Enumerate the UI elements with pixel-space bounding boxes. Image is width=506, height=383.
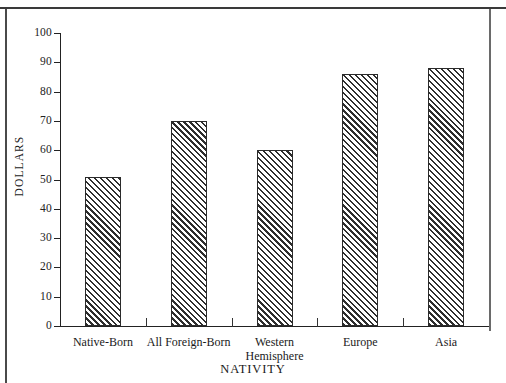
x-axis-category-label-line: Native-Born bbox=[60, 336, 146, 350]
y-axis-tick bbox=[54, 238, 61, 239]
y-axis-tick-label-text: 80 bbox=[4, 86, 52, 98]
y-axis-tick-label: 70 bbox=[0, 115, 52, 127]
y-axis-tick-label: 20 bbox=[0, 261, 52, 273]
y-axis-tick-label: 10 bbox=[0, 291, 52, 303]
x-axis-category-label: WesternHemisphere bbox=[232, 336, 318, 363]
y-axis-tick bbox=[54, 180, 61, 181]
y-axis-tick bbox=[54, 121, 61, 122]
x-axis-tick bbox=[232, 318, 233, 327]
x-axis-line bbox=[60, 326, 489, 327]
y-axis-tick-label-text: 20 bbox=[4, 261, 52, 273]
y-axis-tick-label-text: 10 bbox=[4, 291, 52, 303]
y-axis-tick-label-text: 70 bbox=[4, 115, 52, 127]
y-axis-tick-label-text: 50 bbox=[4, 174, 52, 186]
x-axis-tick bbox=[317, 318, 318, 327]
y-axis-tick-label: 80 bbox=[0, 86, 52, 98]
y-axis-tick-label: 0 bbox=[0, 320, 52, 332]
x-axis-category-label: Asia bbox=[403, 336, 489, 350]
y-axis-tick bbox=[54, 209, 61, 210]
bar bbox=[257, 150, 293, 326]
y-axis-tick-label: 100 bbox=[0, 27, 52, 39]
y-axis-tick-label: 60 bbox=[0, 144, 52, 156]
y-axis-tick-label-text: 100 bbox=[4, 27, 52, 39]
x-axis-category-label-line: Western bbox=[232, 336, 318, 350]
x-axis-category-label: Native-Born bbox=[60, 336, 146, 350]
y-axis-tick bbox=[54, 267, 61, 268]
y-axis-tick bbox=[54, 150, 61, 151]
x-axis-category-label: Europe bbox=[317, 336, 403, 350]
y-axis-title: DOLLARS bbox=[13, 116, 25, 216]
x-axis-category-label: All Foreign-Born bbox=[146, 336, 232, 350]
x-axis-category-label-line: Asia bbox=[403, 336, 489, 350]
y-axis-tick bbox=[54, 326, 61, 327]
x-axis-title: NATIVITY bbox=[0, 362, 506, 377]
y-axis-tick bbox=[54, 92, 61, 93]
y-axis-tick-label-text: 30 bbox=[4, 232, 52, 244]
x-axis-tick bbox=[403, 318, 404, 327]
y-axis-tick bbox=[54, 297, 61, 298]
y-axis-tick-label: 40 bbox=[0, 203, 52, 215]
x-axis-tick bbox=[146, 318, 147, 327]
bar-chart: 1009080706050403020100 DOLLARS NATIVITY … bbox=[0, 0, 506, 383]
y-axis-tick-label: 90 bbox=[0, 56, 52, 68]
x-axis-category-label-line: All Foreign-Born bbox=[146, 336, 232, 350]
y-axis-tick-label-text: 0 bbox=[4, 320, 52, 332]
y-axis-tick bbox=[54, 33, 61, 34]
y-axis-tick-label-text: 40 bbox=[4, 203, 52, 215]
x-axis-category-label-line: Europe bbox=[317, 336, 403, 350]
y-axis-tick-label-text: 90 bbox=[4, 56, 52, 68]
y-axis-tick-label: 30 bbox=[0, 232, 52, 244]
y-axis-tick-label-text: 60 bbox=[4, 144, 52, 156]
y-axis-tick-label: 50 bbox=[0, 174, 52, 186]
x-axis-category-label-line: Hemisphere bbox=[232, 350, 318, 364]
y-axis-tick bbox=[54, 62, 61, 63]
bar bbox=[428, 68, 464, 326]
bar bbox=[342, 74, 378, 326]
bar bbox=[171, 121, 207, 326]
bar bbox=[85, 177, 121, 326]
